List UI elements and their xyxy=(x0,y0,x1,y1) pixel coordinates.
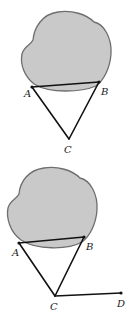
label-A: A xyxy=(11,247,19,258)
label-B: B xyxy=(100,86,108,97)
segment-AC xyxy=(32,87,69,139)
label-C: C xyxy=(64,144,72,155)
segment-AC xyxy=(19,243,55,296)
point-D xyxy=(119,291,122,294)
figure-top: A B C xyxy=(22,11,112,155)
diagram-canvas: A B C A B C D xyxy=(0,0,133,323)
label-A: A xyxy=(23,88,31,99)
point-B xyxy=(97,80,100,83)
label-D: D xyxy=(116,298,125,309)
label-B: B xyxy=(85,241,93,252)
point-A xyxy=(17,241,20,244)
irregular-region-top xyxy=(22,11,112,91)
segment-CD xyxy=(55,293,121,296)
point-B xyxy=(82,235,85,238)
label-C: C xyxy=(50,301,58,312)
figure-bottom: A B C D xyxy=(8,167,126,312)
